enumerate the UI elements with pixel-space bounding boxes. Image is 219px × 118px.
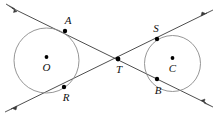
center-point-c bbox=[171, 56, 175, 60]
secant-line-rts-segment bbox=[11, 13, 207, 109]
label-a: A bbox=[64, 14, 72, 26]
geometry-figure: A R S B T O C bbox=[0, 0, 219, 118]
label-o: O bbox=[43, 61, 51, 73]
point-s bbox=[155, 37, 159, 41]
center-point-o bbox=[45, 55, 49, 59]
line-R-T-S bbox=[5, 10, 213, 112]
label-t: T bbox=[116, 63, 123, 75]
point-r bbox=[62, 85, 66, 89]
point-b bbox=[155, 77, 159, 81]
arrow-head-top-right-icon bbox=[201, 10, 213, 16]
label-c: C bbox=[169, 62, 177, 74]
secant-line-atb-segment bbox=[12, 8, 206, 103]
arrow-head-top-left-icon bbox=[6, 4, 17, 13]
geometry-canvas: A R S B T O C bbox=[0, 0, 219, 118]
label-b: B bbox=[155, 84, 162, 96]
label-r: R bbox=[62, 91, 70, 103]
label-s: S bbox=[153, 22, 159, 34]
arrow-head-bottom-left-icon bbox=[5, 106, 17, 112]
point-t bbox=[116, 57, 121, 62]
point-a bbox=[63, 29, 67, 33]
arrow-head-bottom-right-icon bbox=[201, 99, 213, 107]
